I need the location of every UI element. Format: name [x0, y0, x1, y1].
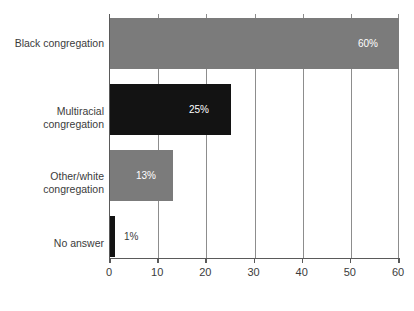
tick-mark-60 — [398, 258, 400, 263]
tick-mark-50 — [350, 258, 352, 263]
category-label-black-congregation: Black congregation — [0, 37, 104, 50]
tick-mark-40 — [302, 258, 304, 263]
bar-value-black-congregation: 60% — [358, 39, 378, 49]
bar-no-answer — [110, 216, 115, 257]
tick-label-60: 60 — [392, 266, 404, 278]
bar-value-other-white-congregation: 13% — [136, 171, 156, 181]
tick-label-10: 10 — [151, 266, 163, 278]
bar-multiracial-congregation — [110, 84, 231, 135]
tick-label-30: 30 — [247, 266, 259, 278]
tick-label-40: 40 — [296, 266, 308, 278]
bar-chart: Black congregation Multiracial congregat… — [0, 0, 414, 311]
tick-mark-30 — [254, 258, 256, 263]
bar-value-multiracial-congregation: 25% — [189, 105, 209, 115]
tick-label-20: 20 — [199, 266, 211, 278]
category-axis-labels: Black congregation Multiracial congregat… — [0, 0, 104, 258]
tick-label-50: 50 — [344, 266, 356, 278]
category-label-no-answer: No answer — [0, 237, 104, 250]
category-label-multiracial-congregation: Multiracial congregation — [0, 105, 104, 130]
tick-mark-0 — [109, 258, 111, 263]
bar-black-congregation — [110, 18, 399, 69]
bar-value-no-answer: 1% — [124, 232, 138, 242]
tick-label-0: 0 — [106, 266, 112, 278]
category-label-other-white-congregation: Other/white congregation — [0, 170, 104, 195]
tick-mark-10 — [157, 258, 159, 263]
plot-area: 60% 25% 13% 1% — [109, 14, 399, 259]
tick-mark-20 — [205, 258, 207, 263]
